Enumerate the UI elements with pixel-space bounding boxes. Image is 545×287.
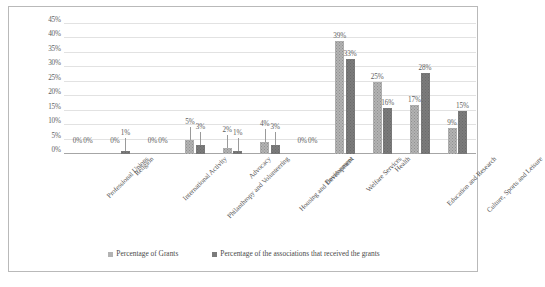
bar (223, 148, 232, 154)
y-axis-tick-label: 15% (48, 103, 61, 111)
bar-value-label: 15% (456, 102, 469, 110)
bar-value-label: 1% (233, 129, 242, 137)
bar-value-label: 4% (260, 120, 269, 128)
bar (121, 151, 130, 154)
bar-group: 0%0% (289, 24, 326, 154)
chart-legend: Percentage of GrantsPercentage of the as… (9, 250, 479, 258)
bar-value-label: 16% (381, 99, 394, 107)
bar-value-label: 0% (308, 137, 317, 145)
bar-group: 0%1% (101, 24, 138, 154)
bar-value-label: 3% (271, 123, 280, 131)
bar-value-label: 0% (83, 137, 92, 145)
y-axis-tick-label: 10% (48, 117, 61, 125)
bar-group: 2%1% (214, 24, 251, 154)
y-axis-tick-label: 40% (48, 30, 61, 38)
y-axis-tick-label: 5% (52, 132, 61, 140)
bar-value-label: 0% (73, 137, 82, 145)
bar (410, 105, 419, 154)
bar (383, 108, 392, 154)
bar (346, 59, 355, 154)
leader-line (238, 138, 239, 151)
bar-group: 39%33% (326, 24, 363, 154)
bars-layer: 0%0%0%1%0%0%5%3%2%1%4%3%0%0%39%33%25%16%… (64, 24, 476, 154)
leader-line (200, 132, 201, 145)
legend-label: Percentage of the associations that rece… (220, 250, 379, 258)
bar-value-label: 0% (148, 137, 157, 145)
x-axis-tick-label: Education and Research (445, 155, 498, 208)
bar (260, 142, 269, 154)
x-axis-tick-label: Environment (324, 155, 356, 187)
leader-line (125, 138, 126, 151)
y-axis-tick-label: 35% (48, 45, 61, 53)
bar-value-label: 33% (344, 50, 357, 58)
y-axis: 0%5%10%15%20%25%30%35%40%45% (27, 24, 61, 154)
bar (271, 145, 280, 154)
bar-value-label: 0% (158, 137, 167, 145)
bar-group: 4%3% (251, 24, 288, 154)
leader-line (265, 129, 266, 142)
bar (421, 73, 430, 154)
leader-line (190, 127, 191, 140)
legend-item[interactable]: Percentage of Grants (108, 250, 178, 258)
leader-line (227, 135, 228, 148)
bar (458, 111, 467, 154)
x-axis-tick-label: Welfare Services (365, 155, 404, 194)
bar-value-label: 17% (408, 96, 421, 104)
bar-value-label: 0% (297, 137, 306, 145)
bar-value-label: 1% (121, 129, 130, 137)
legend-item[interactable]: Percentage of the associations that rece… (212, 250, 379, 258)
bar-value-label: 3% (196, 123, 205, 131)
bar (335, 41, 344, 154)
y-axis-tick-label: 20% (48, 88, 61, 96)
bar-value-label: 25% (371, 73, 384, 81)
leader-line (275, 132, 276, 145)
y-axis-tick-label: 30% (48, 59, 61, 67)
bar-group: 9%15% (439, 24, 476, 154)
chart-frame: 0%5%10%15%20%25%30%35%40%45% 0%0%0%1%0%0… (8, 6, 478, 272)
x-axis: Professional UnionsReligionInternational… (64, 155, 476, 235)
bar-group: 17%28% (401, 24, 438, 154)
bar-group: 0%0% (139, 24, 176, 154)
bar-group: 25%16% (364, 24, 401, 154)
bar-group: 0%0% (64, 24, 101, 154)
bar (373, 82, 382, 154)
x-axis-tick-label: International Activity (181, 155, 229, 203)
bar-value-label: 28% (419, 64, 432, 72)
x-axis-tick-label: Religion (133, 155, 156, 178)
bar-value-label: 39% (333, 32, 346, 40)
plot-area: 0%0%0%1%0%0%5%3%2%1%4%3%0%0%39%33%25%16%… (64, 24, 476, 154)
bar (233, 151, 242, 154)
bar-value-label: 5% (185, 118, 194, 126)
legend-label: Percentage of Grants (116, 250, 178, 258)
bar (196, 145, 205, 154)
bar-group: 5%3% (176, 24, 213, 154)
bar-value-label: 0% (110, 137, 119, 145)
legend-swatch-icon (108, 252, 113, 257)
bar (185, 140, 194, 154)
bar (448, 128, 457, 154)
legend-swatch-icon (212, 252, 217, 257)
y-axis-tick-label: 45% (48, 16, 61, 24)
bar-value-label: 2% (223, 126, 232, 134)
bar-value-label: 9% (447, 119, 456, 127)
y-axis-tick-label: 25% (48, 74, 61, 82)
y-axis-tick-label: 0% (52, 146, 61, 154)
